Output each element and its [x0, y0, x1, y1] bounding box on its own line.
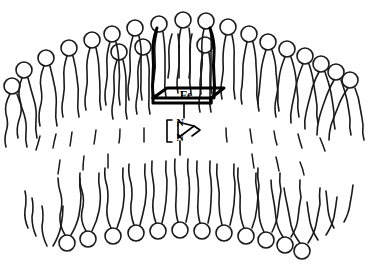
- lipid-outer: [241, 26, 258, 104]
- lipid-outer: [127, 20, 143, 100]
- lipid-outer: [135, 39, 151, 114]
- lipid-inner: [256, 173, 281, 248]
- lipid-outer: [175, 12, 191, 93]
- lipid-inner: [172, 159, 190, 238]
- lipid-inner: [80, 173, 101, 247]
- lipid-outer: [84, 32, 101, 110]
- membrane-diagram: Fe N N: [0, 0, 371, 273]
- inner-tail-only: [25, 191, 36, 236]
- diagram-canvas: Fe N N: [0, 0, 371, 273]
- lipid-outer: [104, 26, 120, 105]
- fe-label: Fe: [180, 88, 193, 102]
- lipid-inner: [105, 168, 125, 244]
- lipid-inner: [194, 161, 212, 239]
- inner-tail-only: [326, 185, 353, 228]
- lipid-inner: [284, 188, 320, 259]
- lipid-inner: [58, 178, 81, 251]
- lipid-outer: [61, 40, 79, 117]
- lipid-inner: [271, 180, 301, 253]
- lipid-inner: [150, 161, 167, 239]
- lipid-outer-tail-only: [189, 34, 192, 78]
- imidazole-left-bracket: [167, 120, 172, 142]
- lipid-outer: [4, 78, 27, 147]
- lipid-inner: [216, 164, 235, 241]
- lipid-outer: [329, 72, 364, 140]
- lipid-inner: [128, 164, 146, 241]
- inner-tail-only: [307, 197, 337, 240]
- lipid-outer: [38, 50, 57, 126]
- outer-leaflet: [4, 12, 364, 147]
- nitrogen-bottom-label: N: [176, 132, 184, 143]
- nitrogen-top-label: N: [176, 117, 184, 128]
- imidazole-ligand[interactable]: [167, 103, 200, 155]
